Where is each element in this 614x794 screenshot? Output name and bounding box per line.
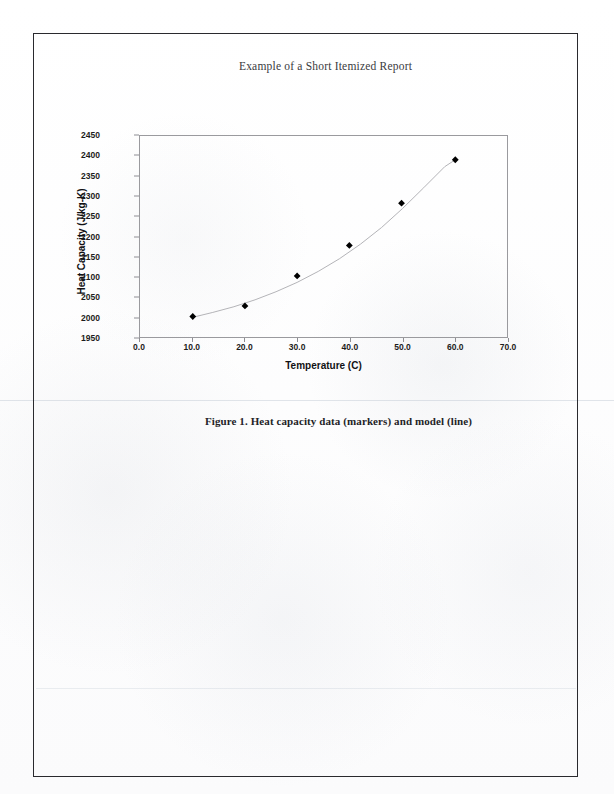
y-axis-tick-label: 2250 [60, 211, 100, 221]
y-axis-tick-label: 2200 [60, 232, 100, 242]
data-point-marker [189, 313, 196, 320]
y-axis-tick-mark [134, 297, 139, 298]
y-axis-tick-mark [134, 155, 139, 156]
x-axis-tick-mark [350, 338, 351, 342]
y-axis-tick-label: 2100 [60, 272, 100, 282]
y-axis-tick-mark [134, 256, 139, 257]
x-axis-tick-label: 10.0 [169, 342, 215, 352]
y-axis-tick-label: 2000 [60, 313, 100, 323]
y-axis-tick-mark [134, 175, 139, 176]
data-point-marker [398, 200, 405, 207]
x-axis-tick-mark [139, 338, 140, 342]
y-axis-tick-mark [134, 236, 139, 237]
y-axis-tick-label: 2150 [60, 252, 100, 262]
y-axis-tick-label: 2350 [60, 171, 100, 181]
x-axis-tick-mark [297, 338, 298, 342]
x-axis-tick-label: 40.0 [327, 342, 373, 352]
data-point-marker [294, 272, 301, 279]
x-axis-tick-mark [455, 338, 456, 342]
y-axis-tick-mark [134, 195, 139, 196]
figure-block: Example of a Short Itemized Report Heat … [33, 60, 578, 380]
y-axis-tick-label: 2050 [60, 292, 100, 302]
x-axis-tick-mark [192, 338, 193, 342]
x-axis-tick-mark [403, 338, 404, 342]
x-axis-tick-label: 0.0 [116, 342, 162, 352]
y-axis-tick-label: 1950 [60, 333, 100, 343]
scanned-page: Example of a Short Itemized Report Heat … [0, 0, 614, 794]
x-axis-tick-label: 50.0 [380, 342, 426, 352]
y-axis-tick-label: 2450 [60, 130, 100, 140]
y-axis-tick-label: 2400 [60, 150, 100, 160]
x-axis-label: Temperature (C) [139, 360, 508, 371]
model-line-series [193, 160, 456, 318]
data-marker-group [189, 156, 458, 320]
x-axis-tick-mark [244, 338, 245, 342]
plot-svg [139, 135, 508, 338]
data-point-marker [346, 242, 353, 249]
y-axis-tick-mark [134, 216, 139, 217]
x-axis-tick-label: 70.0 [485, 342, 531, 352]
y-axis-tick-mark [134, 317, 139, 318]
y-axis-tick-mark [134, 135, 139, 136]
data-point-marker [452, 156, 459, 163]
chart-title: Example of a Short Itemized Report [73, 60, 578, 72]
x-axis-tick-label: 20.0 [221, 342, 267, 352]
y-axis-tick-label: 2300 [60, 191, 100, 201]
figure-caption: Figure 1. Heat capacity data (markers) a… [66, 415, 611, 427]
x-axis-tick-mark [508, 338, 509, 342]
chart-area: Heat Capacity (J/kg-K) Temperature (C) 1… [33, 80, 578, 380]
x-axis-tick-label: 60.0 [432, 342, 478, 352]
y-axis-tick-mark [134, 277, 139, 278]
x-axis-tick-label: 30.0 [274, 342, 320, 352]
